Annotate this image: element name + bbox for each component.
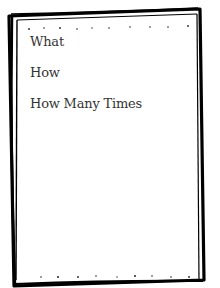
prompt-how-many-times: How Many Times — [30, 96, 142, 112]
prompt-how: How — [30, 65, 142, 81]
prompt-what: What — [30, 34, 142, 50]
bottom-dot-row — [40, 275, 190, 278]
top-dot-row — [28, 25, 189, 30]
prompt-list: What How How Many Times — [30, 34, 142, 127]
